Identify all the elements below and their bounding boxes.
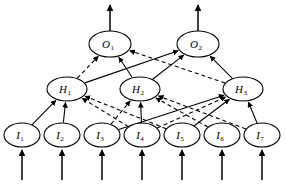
network-canvas: O1O2H1H2H3I1I2I3I4I5I6I7 xyxy=(0,0,286,184)
node-o2: O2 xyxy=(177,31,219,57)
edge-h3-to-o2 xyxy=(210,56,232,78)
node-subscript-i7: 7 xyxy=(260,135,264,143)
node-subscript-h3: 3 xyxy=(243,89,247,97)
edge-i7-to-h3 xyxy=(248,102,257,123)
edge-i4-to-h1 xyxy=(82,98,128,126)
node-o1: O1 xyxy=(89,31,131,57)
node-i6: I6 xyxy=(204,123,240,147)
node-subscript-i2: 2 xyxy=(60,135,64,143)
nodes-group: O1O2H1H2H3I1I2I3I4I5I6I7 xyxy=(4,31,280,147)
edge-i3-to-h2 xyxy=(111,101,130,124)
edge-i1-to-h1 xyxy=(32,100,56,124)
node-h3: H3 xyxy=(223,77,263,101)
edge-h2-to-o2 xyxy=(153,55,184,79)
node-subscript-i4: 4 xyxy=(140,135,144,143)
node-i1: I1 xyxy=(4,123,40,147)
neural-network-diagram: O1O2H1H2H3I1I2I3I4I5I6I7 xyxy=(0,0,286,184)
edge-i4-to-h2 xyxy=(141,102,142,122)
node-subscript-o1: 1 xyxy=(110,44,114,52)
node-subscript-h2: 2 xyxy=(140,89,144,97)
node-i2: I2 xyxy=(44,123,80,147)
node-i5: I5 xyxy=(164,123,200,147)
node-h2: H2 xyxy=(120,77,160,101)
edge-h1-to-o1 xyxy=(77,56,98,78)
edge-i2-to-h1 xyxy=(63,102,65,122)
node-h1: H1 xyxy=(47,77,87,101)
node-subscript-i1: 1 xyxy=(20,135,24,143)
node-i4: I4 xyxy=(124,123,160,147)
node-i3: I3 xyxy=(84,123,120,147)
node-subscript-o2: 2 xyxy=(198,44,202,52)
node-subscript-i6: 6 xyxy=(220,135,224,143)
node-i7: I7 xyxy=(244,123,280,147)
node-subscript-i5: 5 xyxy=(180,135,184,143)
node-subscript-i3: 3 xyxy=(100,135,104,143)
node-subscript-h1: 1 xyxy=(67,89,71,97)
